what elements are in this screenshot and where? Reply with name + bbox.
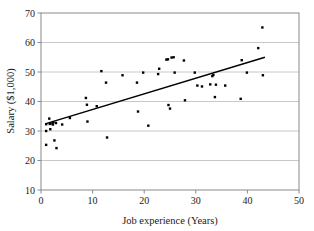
data-point (55, 122, 57, 124)
y-axis-ticks (38, 13, 42, 190)
data-point (257, 47, 259, 49)
data-point (212, 74, 214, 76)
y-tick-label-20: 20 (25, 155, 35, 166)
data-point (85, 97, 87, 99)
data-point (215, 83, 217, 85)
data-point (61, 123, 63, 125)
data-point (158, 68, 160, 70)
x-tick-label-10: 10 (88, 195, 98, 206)
x-tick-label-30: 30 (191, 195, 201, 206)
data-point (147, 124, 149, 126)
data-point (184, 99, 186, 101)
x-tick-label-0: 0 (39, 195, 44, 206)
data-point (96, 105, 98, 107)
y-tick-label-70: 70 (25, 8, 35, 19)
data-point (262, 74, 264, 76)
data-point (241, 59, 243, 61)
data-point (45, 144, 47, 146)
data-point (172, 56, 174, 58)
data-point (201, 85, 203, 87)
data-point (45, 130, 47, 132)
y-tick-label-40: 40 (25, 96, 35, 107)
y-tick-label-10: 10 (25, 185, 35, 196)
data-point (136, 81, 138, 83)
data-point (49, 128, 51, 130)
x-tick-label-50: 50 (294, 195, 304, 206)
data-point (55, 147, 57, 149)
data-point (86, 104, 88, 106)
data-point (169, 107, 171, 109)
y-tick-label-30: 30 (25, 126, 35, 137)
data-point (48, 117, 50, 119)
data-point (246, 71, 248, 73)
x-axis-ticks (41, 190, 299, 194)
data-point (239, 98, 241, 100)
data-point (106, 136, 108, 138)
data-point (137, 110, 139, 112)
data-point (224, 84, 226, 86)
data-point (214, 96, 216, 98)
x-axis-title: Job experience (Years) (122, 215, 218, 227)
data-point (183, 59, 185, 61)
scatter-plot-figure: 01020304050 10203040506070 Job experienc… (0, 0, 314, 231)
data-point (142, 71, 144, 73)
data-point (196, 84, 198, 86)
data-point (261, 26, 263, 28)
y-tick-label-50: 50 (25, 67, 35, 78)
y-axis-title: Salary ($1,000) (5, 68, 17, 134)
data-point (53, 139, 55, 141)
data-point (170, 56, 172, 58)
data-point (194, 71, 196, 73)
data-point (167, 58, 169, 60)
x-tick-label-20: 20 (139, 195, 149, 206)
data-point (167, 104, 169, 106)
x-axis-tick-labels: 01020304050 (39, 195, 305, 206)
x-tick-label-40: 40 (242, 195, 252, 206)
data-point (52, 123, 54, 125)
data-point (209, 83, 211, 85)
data-point (157, 73, 159, 75)
data-point (86, 120, 88, 122)
data-point (100, 70, 102, 72)
data-point (105, 81, 107, 83)
data-point (121, 74, 123, 76)
data-point (173, 71, 175, 73)
y-tick-label-60: 60 (25, 37, 35, 48)
chart-canvas: 01020304050 10203040506070 Job experienc… (0, 0, 314, 231)
y-axis-tick-labels: 10203040506070 (25, 8, 35, 196)
